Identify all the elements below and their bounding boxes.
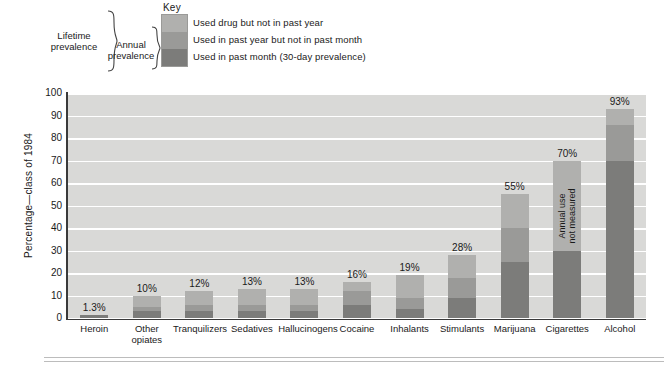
- footer-rule-top: [44, 357, 664, 358]
- x-label-alcohol: Alcohol: [593, 323, 646, 334]
- bar-value-label: 19%: [400, 262, 420, 273]
- bar-segment: [133, 296, 161, 307]
- plot-area: 1.3%10%12%13%13%16%19%28%55%70%Annual us…: [68, 93, 646, 318]
- bar-heroin[interactable]: 1.3%: [80, 315, 108, 318]
- y-tick-80: 80: [32, 133, 62, 143]
- bar-inhalants[interactable]: 19%: [396, 275, 424, 318]
- bar-segment: [606, 109, 634, 125]
- bar-segment: [606, 125, 634, 161]
- bar-segment: [185, 311, 213, 318]
- bar-annotation-line2: not measured: [567, 188, 577, 243]
- x-label-line: Other: [135, 323, 159, 334]
- bar-segment: [343, 291, 371, 305]
- x-label-tranquilizers: Tranquilizers: [173, 323, 226, 334]
- x-label-line: Hallucinogens: [278, 323, 338, 334]
- bar-segment: [396, 298, 424, 309]
- bar-segment: [501, 228, 529, 262]
- annual-prevalence-line2: prevalence: [108, 50, 154, 61]
- x-label-line: Marijuana: [494, 323, 536, 334]
- bar-segment: [133, 311, 161, 318]
- bar-segment: [396, 309, 424, 318]
- x-label-stimulants: Stimulants: [436, 323, 489, 334]
- x-label-line: opiates: [131, 334, 162, 345]
- x-label-line: Heroin: [80, 323, 108, 334]
- bar-stimulants[interactable]: 28%: [448, 255, 476, 318]
- bar-alcohol[interactable]: 93%: [606, 109, 634, 318]
- bar-value-label: 13%: [294, 276, 314, 287]
- x-label-line: Cocaine: [340, 323, 375, 334]
- chart-legend: Key Used drug but not in past year Used …: [0, 0, 668, 88]
- bar-segment: [553, 251, 581, 319]
- bar-segment: [290, 289, 318, 305]
- y-tick-70: 70: [32, 156, 62, 166]
- x-label-hallucinogens: Hallucinogens: [278, 323, 331, 334]
- legend-title: Key: [163, 2, 181, 13]
- x-label-inhalants: Inhalants: [383, 323, 436, 334]
- x-label-marijuana: Marijuana: [488, 323, 541, 334]
- x-label-line: Sedatives: [231, 323, 273, 334]
- bar-segment: [606, 161, 634, 319]
- bar-segment: [185, 291, 213, 305]
- bar-segment: [80, 315, 108, 318]
- bar-value-label: 1.3%: [83, 302, 106, 313]
- bar-cocaine[interactable]: 16%: [343, 282, 371, 318]
- y-tick-50: 50: [32, 201, 62, 211]
- bar-value-label: 93%: [610, 96, 630, 107]
- bar-segment: [238, 311, 266, 318]
- bar-value-label: 55%: [505, 181, 525, 192]
- x-label-line: Inhalants: [390, 323, 429, 334]
- bar-segment: [448, 298, 476, 318]
- bar-tranquilizers[interactable]: 12%: [185, 291, 213, 318]
- footer-rule-bottom: [44, 361, 664, 362]
- legend-label-used-past-year-not-past-month: Used in past year but not in past month: [193, 34, 362, 45]
- bar-cigarettes[interactable]: 70%Annual usenot measured: [553, 161, 581, 319]
- lifetime-prevalence-line1: Lifetime: [57, 30, 90, 41]
- x-label-other-opiates: Otheropiates: [121, 323, 174, 345]
- annual-prevalence-brace: [150, 26, 161, 70]
- y-tick-10: 10: [32, 291, 62, 301]
- bar-segment: [290, 311, 318, 318]
- bar-annotation-line1: Annual use: [557, 193, 567, 238]
- x-label-cocaine: Cocaine: [331, 323, 384, 334]
- x-label-line: Alcohol: [604, 323, 635, 334]
- legend-label-used-drug-not-past-year: Used drug but not in past year: [193, 17, 323, 28]
- legend-swatch-stack: [161, 14, 188, 67]
- bar-marijuana[interactable]: 55%: [501, 194, 529, 318]
- bar-segment: [448, 255, 476, 278]
- annual-prevalence-label: Annual prevalence: [106, 39, 156, 61]
- bar-value-label: 10%: [137, 283, 157, 294]
- y-tick-60: 60: [32, 178, 62, 188]
- bar-value-label: 12%: [189, 278, 209, 289]
- bar-segment: [238, 305, 266, 312]
- y-tick-0: 0: [32, 313, 62, 323]
- y-tick-100: 100: [32, 88, 62, 98]
- bar-segment: [185, 305, 213, 312]
- bar-segment: [343, 282, 371, 291]
- legend-label-used-past-month: Used in past month (30-day prevalence): [193, 51, 366, 62]
- bar-segment: [343, 305, 371, 319]
- bar-segment: [501, 194, 529, 228]
- bar-sedatives[interactable]: 13%: [238, 289, 266, 318]
- bar-segment: [501, 262, 529, 318]
- bar-value-label: 70%: [557, 148, 577, 159]
- x-label-line: Tranquilizers: [173, 323, 227, 334]
- bar-segment: [290, 305, 318, 312]
- y-axis-ticks: 1009080706050403020100: [28, 0, 62, 372]
- x-axis-line: [66, 319, 646, 321]
- bar-value-label: 28%: [452, 242, 472, 253]
- x-label-cigarettes: Cigarettes: [541, 323, 594, 334]
- bar-other-opiates[interactable]: 10%: [133, 296, 161, 319]
- x-label-heroin: Heroin: [68, 323, 121, 334]
- bar-segment: [396, 275, 424, 298]
- gridline-90: [68, 116, 646, 118]
- legend-swatch-used-past-month: [162, 49, 187, 66]
- y-tick-30: 30: [32, 246, 62, 256]
- legend-swatch-used-past-year-not-past-month: [162, 32, 187, 49]
- gridline-100: [68, 93, 646, 95]
- y-tick-20: 20: [32, 268, 62, 278]
- bar-hallucinogens[interactable]: 13%: [290, 289, 318, 318]
- x-label-sedatives: Sedatives: [226, 323, 279, 334]
- y-tick-40: 40: [32, 223, 62, 233]
- x-label-line: Cigarettes: [546, 323, 589, 334]
- y-tick-90: 90: [32, 111, 62, 121]
